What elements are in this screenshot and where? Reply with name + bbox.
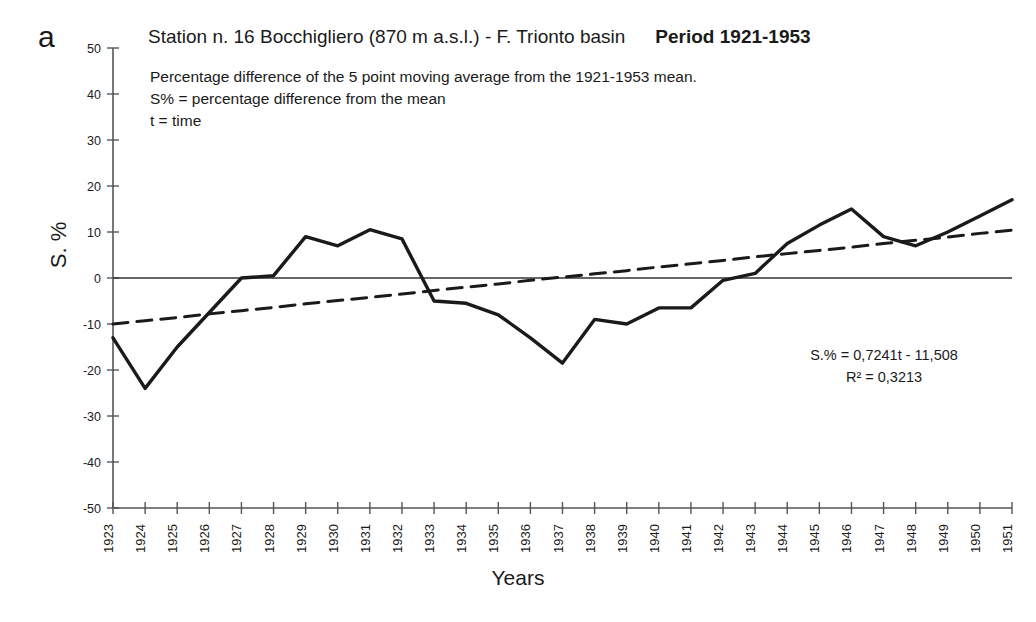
plot-area: 50403020100-10-20-30-40-5019231924192519… — [0, 0, 1036, 622]
x-tick-label: 1941 — [679, 524, 694, 553]
y-tick-label: 40 — [87, 88, 101, 102]
x-tick-label: 1925 — [165, 524, 180, 553]
x-tick-label: 1938 — [583, 524, 598, 553]
data-line-series — [113, 200, 1012, 389]
x-tick-label: 1948 — [904, 524, 919, 553]
y-tick-label: -20 — [83, 364, 101, 378]
x-tick-label: 1942 — [711, 524, 726, 553]
x-tick-label: 1935 — [486, 524, 501, 553]
y-tick-label: -40 — [83, 456, 101, 470]
y-tick-label: 30 — [87, 134, 101, 148]
x-tick-label: 1926 — [197, 524, 212, 553]
x-tick-label: 1936 — [518, 524, 533, 553]
x-tick-label: 1931 — [358, 524, 373, 553]
y-tick-label: -10 — [83, 318, 101, 332]
x-tick-label: 1945 — [807, 524, 822, 553]
x-tick-label: 1946 — [839, 524, 854, 553]
x-tick-label: 1950 — [968, 524, 983, 553]
x-tick-label: 1924 — [133, 524, 148, 553]
x-tick-label: 1933 — [422, 524, 437, 553]
x-tick-label: 1923 — [101, 524, 116, 553]
x-tick-label: 1928 — [262, 524, 277, 553]
x-tick-label: 1943 — [743, 524, 758, 553]
x-tick-label: 1927 — [229, 524, 244, 553]
x-tick-label: 1951 — [1000, 524, 1015, 553]
x-tick-label: 1944 — [775, 524, 790, 553]
y-tick-label: 20 — [87, 180, 101, 194]
x-tick-label: 1937 — [551, 524, 566, 553]
x-tick-label: 1934 — [454, 524, 469, 553]
x-tick-label: 1949 — [936, 524, 951, 553]
x-tick-label: 1947 — [872, 524, 887, 553]
x-tick-label: 1929 — [294, 524, 309, 553]
x-tick-label: 1940 — [647, 524, 662, 553]
y-tick-label: -50 — [83, 502, 101, 516]
y-tick-label: 0 — [94, 272, 101, 286]
y-tick-label: -30 — [83, 410, 101, 424]
y-tick-label: 10 — [87, 226, 101, 240]
y-tick-label: 50 — [87, 42, 101, 56]
x-tick-label: 1930 — [326, 524, 341, 553]
x-tick-label: 1939 — [615, 524, 630, 553]
x-tick-label: 1932 — [390, 524, 405, 553]
chart-figure: a Station n. 16 Bocchigliero (870 m a.s.… — [0, 0, 1036, 622]
